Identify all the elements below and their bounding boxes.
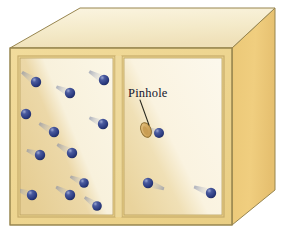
chamber-divider <box>115 56 122 217</box>
left-chamber <box>10 56 115 217</box>
pinhole-label: Pinhole <box>128 86 168 101</box>
effusion-box-illustration <box>0 0 288 238</box>
box-top-face <box>10 8 275 48</box>
right-chamber <box>122 56 224 217</box>
figure-canvas: Pinhole <box>0 0 288 238</box>
